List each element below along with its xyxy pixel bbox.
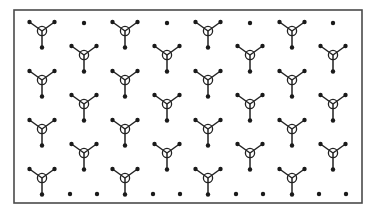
end-atom-dot [248,69,252,73]
end-atom-dot [52,69,56,73]
isolated-atom-dot [82,21,86,25]
molecule [27,20,56,50]
end-atom-dot [218,167,222,171]
isolated-atom-dot [151,192,155,196]
end-atom-dot [260,93,264,97]
end-atom-dot [94,93,98,97]
end-atom-dot [331,118,335,122]
molecule [193,20,222,50]
end-atom-dot [40,143,44,147]
end-atom-dot [318,44,322,48]
end-atom-dot [318,93,322,97]
end-atom-dot [52,167,56,171]
isolated-atom-dot [178,192,182,196]
lattice-diagram [0,0,373,210]
molecules-group [27,20,347,197]
end-atom-dot [343,142,347,146]
molecule [110,167,139,197]
end-atom-dot [152,142,156,146]
isolated-atom-dot [95,192,99,196]
end-atom-dot [152,44,156,48]
molecule [193,69,222,99]
isolated-atom-dot [331,21,335,25]
end-atom-dot [302,118,306,122]
end-atom-dot [110,167,114,171]
isolated-atom-dot [234,192,238,196]
end-atom-dot [40,192,44,196]
end-atom-dot [260,44,264,48]
molecule [318,44,347,74]
end-atom-dot [94,44,98,48]
end-atom-dot [27,69,31,73]
end-atom-dot [177,44,181,48]
end-atom-dot [290,192,294,196]
molecule [152,142,181,172]
end-atom-dot [277,20,281,24]
molecule [318,142,347,172]
end-atom-dot [27,20,31,24]
end-atom-dot [193,69,197,73]
end-atom-dot [110,118,114,122]
molecule [277,20,306,50]
end-atom-dot [40,45,44,49]
molecule [69,44,98,74]
end-atom-dot [318,142,322,146]
end-atom-dot [152,93,156,97]
end-atom-dot [277,69,281,73]
end-atom-dot [165,69,169,73]
molecule [152,93,181,123]
end-atom-dot [235,44,239,48]
end-atom-dot [277,118,281,122]
end-atom-dot [193,118,197,122]
end-atom-dot [343,44,347,48]
end-atom-dot [206,45,210,49]
end-atom-dot [290,45,294,49]
isolated-atom-dot [344,192,348,196]
diagram-frame [14,10,362,203]
end-atom-dot [52,118,56,122]
end-atom-dot [123,192,127,196]
end-atom-dot [218,20,222,24]
end-atom-dot [135,118,139,122]
end-atom-dot [69,93,73,97]
end-atom-dot [69,142,73,146]
end-atom-dot [302,167,306,171]
end-atom-dot [135,20,139,24]
end-atom-dot [177,142,181,146]
isolated-atom-dot [261,192,265,196]
end-atom-dot [235,142,239,146]
end-atom-dot [193,167,197,171]
molecule [193,167,222,197]
end-atom-dot [177,93,181,97]
end-atom-dot [27,118,31,122]
end-atom-dot [290,94,294,98]
end-atom-dot [165,167,169,171]
end-atom-dot [123,94,127,98]
end-atom-dot [331,167,335,171]
end-atom-dot [110,69,114,73]
end-atom-dot [206,143,210,147]
isolated-atom-dot [317,192,321,196]
end-atom-dot [82,69,86,73]
molecule [193,118,222,148]
end-atom-dot [206,192,210,196]
end-atom-dot [260,142,264,146]
end-atom-dot [235,93,239,97]
end-atom-dot [248,118,252,122]
molecule [110,69,139,99]
end-atom-dot [218,118,222,122]
molecule [110,118,139,148]
molecule [69,142,98,172]
end-atom-dot [135,167,139,171]
end-atom-dot [40,94,44,98]
end-atom-dot [165,118,169,122]
end-atom-dot [110,20,114,24]
isolated-atom-dot [68,192,72,196]
end-atom-dot [290,143,294,147]
end-atom-dot [302,20,306,24]
end-atom-dot [248,167,252,171]
molecule [27,167,56,197]
molecule [235,93,264,123]
molecule [110,20,139,50]
end-atom-dot [52,20,56,24]
